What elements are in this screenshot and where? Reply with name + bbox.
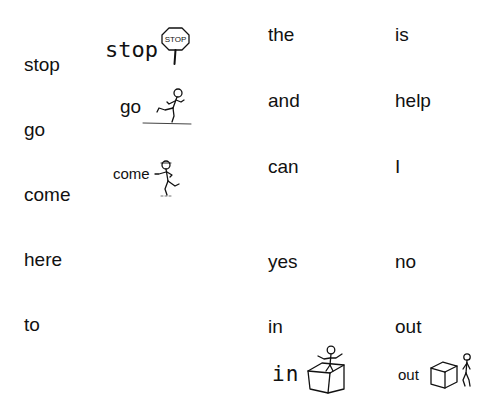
picture-card-label: go: [120, 96, 141, 118]
person-out-of-box-icon: [429, 352, 475, 392]
word-i: I: [395, 157, 400, 177]
picture-card-come: come: [113, 158, 187, 198]
picture-card-label: stop: [105, 37, 158, 62]
picture-card-go: go: [120, 86, 193, 126]
walking-person-icon: [151, 158, 187, 198]
word-help: help: [395, 91, 431, 111]
picture-card-label: out: [398, 366, 419, 383]
word-no: no: [395, 252, 416, 272]
picture-card-out: out: [398, 352, 475, 392]
word-out: out: [395, 317, 421, 337]
word-go: go: [24, 120, 45, 140]
picture-card-label: come: [113, 165, 150, 182]
word-can: can: [268, 157, 299, 177]
word-the: the: [268, 25, 294, 45]
word-yes: yes: [268, 252, 298, 272]
running-person-icon: [141, 86, 193, 126]
picture-card-in: in: [272, 345, 348, 395]
word-in: in: [268, 317, 283, 337]
word-here: here: [24, 250, 62, 270]
word-stop: stop: [24, 55, 60, 75]
word-is: is: [395, 25, 409, 45]
word-and: and: [268, 91, 300, 111]
picture-card-label: in: [272, 362, 299, 386]
word-to: to: [24, 315, 40, 335]
picture-card-stop: stop STOP: [105, 26, 192, 66]
word-come: come: [24, 185, 70, 205]
stop-sign-icon: STOP: [160, 26, 192, 66]
svg-text:STOP: STOP: [165, 35, 187, 44]
person-in-box-icon: [306, 345, 348, 395]
